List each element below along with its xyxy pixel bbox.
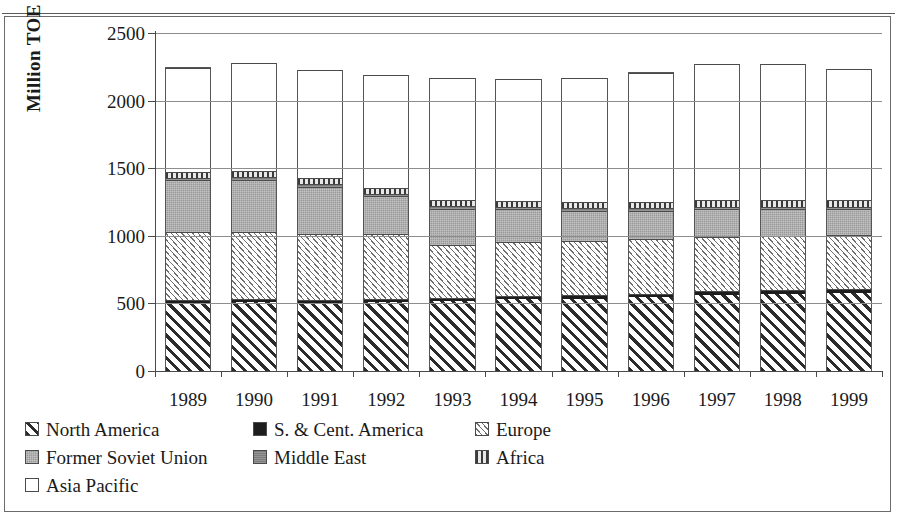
stacked-bar[interactable] — [760, 64, 806, 371]
bar-segment-me[interactable] — [695, 207, 739, 209]
stacked-bar[interactable] — [231, 63, 277, 371]
bar-segment-eur[interactable] — [827, 235, 871, 288]
bar-segment-sca[interactable] — [827, 289, 871, 293]
bar-segment-ap[interactable] — [298, 70, 342, 179]
bar-segment-sca[interactable] — [298, 300, 342, 303]
bar-segment-eur[interactable] — [364, 234, 408, 299]
bar-segment-fsu[interactable] — [629, 211, 673, 239]
stacked-bar[interactable] — [495, 79, 541, 371]
bar-segment-na[interactable] — [232, 302, 276, 371]
bar-segment-ap[interactable] — [364, 75, 408, 188]
bar-segment-afr[interactable] — [430, 200, 474, 206]
bar-segment-na[interactable] — [629, 297, 673, 371]
bar-segment-fsu[interactable] — [496, 209, 540, 241]
bar-segment-ap[interactable] — [232, 63, 276, 170]
stacked-bar[interactable] — [297, 70, 343, 371]
bar-segment-ap[interactable] — [562, 78, 606, 202]
bar-segment-na[interactable] — [430, 301, 474, 371]
bar-segment-me[interactable] — [232, 177, 276, 179]
bar-segment-na[interactable] — [496, 299, 540, 371]
bar-segment-ap[interactable] — [629, 73, 673, 202]
bar-segment-sca[interactable] — [761, 290, 805, 294]
bar-segment-na[interactable] — [166, 303, 210, 371]
legend-item[interactable]: Africa — [475, 443, 545, 471]
bar-segment-afr[interactable] — [298, 178, 342, 184]
bar-segment-afr[interactable] — [166, 172, 210, 178]
bar-segment-ap[interactable] — [695, 64, 739, 201]
bar-segment-sca[interactable] — [166, 300, 210, 303]
bar-segment-fsu[interactable] — [761, 209, 805, 235]
x-tick-mark — [684, 371, 685, 377]
legend-item[interactable]: S. & Cent. America — [253, 415, 423, 443]
bar-segment-eur[interactable] — [232, 232, 276, 299]
bar-segment-me[interactable] — [562, 208, 606, 210]
bar-segment-me[interactable] — [364, 194, 408, 196]
bar-segment-fsu[interactable] — [695, 209, 739, 237]
bar-segment-afr[interactable] — [364, 188, 408, 194]
bar-segment-ap[interactable] — [430, 78, 474, 200]
bar-segment-sca[interactable] — [562, 295, 606, 299]
bar-segment-afr[interactable] — [562, 202, 606, 208]
bar-segment-afr[interactable] — [827, 200, 871, 207]
legend-swatch-icon — [253, 450, 267, 464]
bar-segment-ap[interactable] — [166, 68, 210, 172]
stacked-bar[interactable] — [561, 78, 607, 371]
bar-segment-sca[interactable] — [232, 299, 276, 302]
stacked-bar[interactable] — [628, 72, 674, 371]
bar-segment-na[interactable] — [761, 294, 805, 371]
bar-segment-me[interactable] — [298, 184, 342, 186]
gridline — [155, 303, 882, 304]
bar-segment-eur[interactable] — [166, 232, 210, 300]
bar-segment-afr[interactable] — [695, 200, 739, 207]
stacked-bar[interactable] — [363, 75, 409, 371]
bar-segment-eur[interactable] — [695, 237, 739, 291]
legend-item[interactable]: Middle East — [253, 443, 366, 471]
bar-segment-fsu[interactable] — [166, 180, 210, 232]
bar-segment-na[interactable] — [562, 299, 606, 371]
bar-segment-me[interactable] — [827, 207, 871, 209]
bar-segment-afr[interactable] — [232, 171, 276, 177]
bar-segment-fsu[interactable] — [827, 209, 871, 235]
y-tick-mark — [148, 33, 156, 34]
bar-segment-eur[interactable] — [761, 236, 805, 290]
x-tick-mark — [353, 371, 354, 377]
bar-segment-fsu[interactable] — [430, 209, 474, 245]
legend-item[interactable]: North America — [25, 415, 159, 443]
bar-segment-sca[interactable] — [430, 298, 474, 301]
bar-segment-ap[interactable] — [827, 69, 871, 199]
bar-segment-sca[interactable] — [496, 296, 540, 299]
bar-segment-eur[interactable] — [298, 234, 342, 300]
stacked-bar[interactable] — [165, 67, 211, 371]
bar-segment-sca[interactable] — [364, 299, 408, 302]
bar-segment-ap[interactable] — [761, 64, 805, 201]
bar-segment-eur[interactable] — [430, 245, 474, 298]
legend-item[interactable]: Asia Pacific — [25, 471, 138, 499]
bar-segment-afr[interactable] — [496, 201, 540, 207]
bar-segment-eur[interactable] — [496, 242, 540, 296]
bar-segment-me[interactable] — [430, 206, 474, 208]
bar-segment-me[interactable] — [166, 178, 210, 180]
x-tick-label: 1996 — [618, 389, 684, 411]
stacked-bar[interactable] — [694, 64, 740, 371]
bar-segment-sca[interactable] — [629, 294, 673, 298]
bar-segment-na[interactable] — [364, 302, 408, 371]
legend-item[interactable]: Former Soviet Union — [25, 443, 208, 471]
stacked-bar[interactable] — [826, 69, 872, 371]
bar-segment-eur[interactable] — [562, 241, 606, 295]
bar-segment-eur[interactable] — [629, 239, 673, 294]
bar-segment-me[interactable] — [629, 208, 673, 210]
bar-segment-na[interactable] — [695, 295, 739, 371]
legend-item[interactable]: Europe — [475, 415, 551, 443]
bar-segment-fsu[interactable] — [364, 196, 408, 233]
bar-segment-sca[interactable] — [695, 291, 739, 295]
bar-segment-fsu[interactable] — [232, 180, 276, 232]
bar-segment-ap[interactable] — [496, 79, 540, 201]
x-tick-label: 1992 — [353, 389, 419, 411]
bar-segment-na[interactable] — [298, 303, 342, 371]
bar-segment-fsu[interactable] — [298, 187, 342, 234]
bar-segment-afr[interactable] — [761, 200, 805, 207]
bar-segment-afr[interactable] — [629, 202, 673, 208]
stacked-bar[interactable] — [429, 78, 475, 371]
bar-segment-me[interactable] — [761, 207, 805, 209]
bar-segment-me[interactable] — [496, 207, 540, 209]
